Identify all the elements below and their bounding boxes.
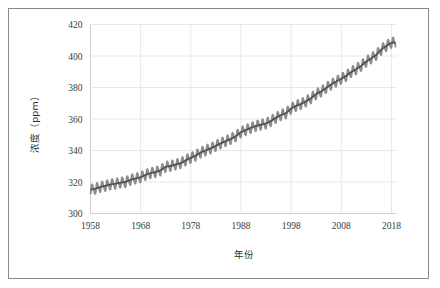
y-tick-label: 420 (68, 20, 83, 30)
x-tick-label: 1978 (181, 221, 200, 231)
x-tick-label: 1958 (81, 221, 100, 231)
x-axis-title: 年份 (234, 249, 254, 260)
y-tick-label: 400 (68, 52, 83, 62)
x-tick-label: 1968 (131, 221, 150, 231)
x-tick-label: 2008 (332, 221, 351, 231)
y-axis-tick-labels: 300320340360380400420 (68, 20, 83, 219)
y-tick-label: 380 (68, 83, 83, 93)
x-axis-tick-labels: 1958196819781988199820082018 (81, 221, 401, 231)
chart-figure: 300320340360380400420 195819681978198819… (0, 0, 440, 288)
y-tick-label: 300 (68, 209, 83, 219)
x-tick-label: 1998 (282, 221, 301, 231)
keeling-curve-chart: 300320340360380400420 195819681978198819… (0, 0, 440, 288)
y-axis-title: 浓度（ppm） (29, 91, 40, 152)
x-tick-label: 1988 (231, 221, 250, 231)
y-tick-label: 360 (68, 115, 83, 125)
y-tick-label: 320 (68, 178, 83, 188)
x-tick-label: 2018 (382, 221, 401, 231)
y-tick-label: 340 (68, 146, 83, 156)
